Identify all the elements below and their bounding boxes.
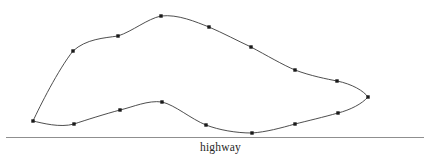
parcel-vertex-marker (366, 95, 369, 98)
parcel-vertex-marker (118, 108, 121, 111)
parcel-vertex-marker (336, 111, 339, 114)
parcel-vertex-marker (293, 68, 296, 71)
parcel-vertex-marker (159, 14, 162, 17)
parcel-vertex-marker (293, 122, 296, 125)
figure-canvas (0, 0, 441, 164)
parcel-vertex-marker (207, 25, 210, 28)
parcel-vertex-marker (250, 131, 253, 134)
parcel-vertex-marker (71, 49, 74, 52)
parcel-lower-boundary (33, 97, 368, 133)
parcel-vertex-marker (72, 122, 75, 125)
parcel-vertex-marker (204, 123, 207, 126)
parcel-vertex-markers (31, 14, 369, 134)
parcel-vertex-marker (160, 100, 163, 103)
parcel-upper-boundary (33, 16, 368, 121)
parcel-boundary-group (33, 16, 368, 133)
parcel-vertex-marker (335, 79, 338, 82)
parcel-vertex-marker (31, 119, 34, 122)
highway-label: highway (0, 141, 441, 153)
parcel-vertex-marker (116, 34, 119, 37)
parcel-vertex-marker (249, 45, 252, 48)
parcel-highway-figure: highway (0, 0, 441, 164)
